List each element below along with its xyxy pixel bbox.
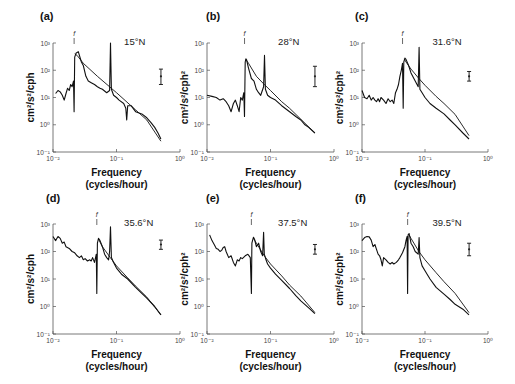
model-spectrum-line bbox=[75, 54, 161, 141]
y-tick-label: 10¹ bbox=[195, 276, 205, 283]
observed-spectrum-line bbox=[210, 232, 315, 313]
y-tick-label: 10³ bbox=[41, 40, 51, 47]
x-tick-label: 10⁰ bbox=[329, 337, 339, 344]
y-tick-label: 10⁰ bbox=[194, 303, 204, 310]
error-bar bbox=[159, 240, 163, 249]
f-marker-label: f bbox=[402, 30, 405, 37]
figure: 10⁻¹10⁰10¹10²10³10⁻²10⁻¹10⁰(a)15°Nfcm²/s… bbox=[0, 0, 515, 384]
y-tick-label: 10¹ bbox=[41, 276, 51, 283]
y-tick-label: 10² bbox=[350, 248, 360, 255]
y-tick-label: 10³ bbox=[195, 221, 205, 228]
y-tick-label: 10² bbox=[350, 67, 360, 74]
observed-spectrum-line bbox=[207, 55, 315, 133]
panel-d: 10⁻¹10⁰10¹10²10³10⁻²10⁻¹10⁰(d)35.6°Nfcm²… bbox=[25, 192, 185, 372]
x-axis-sublabel: (cycles/hour) bbox=[239, 361, 301, 372]
x-axis-label: Frequency bbox=[245, 167, 296, 178]
y-tick-label: 10⁰ bbox=[40, 121, 50, 128]
y-tick-label: 10⁰ bbox=[194, 121, 204, 128]
error-bar bbox=[313, 244, 317, 254]
x-tick-label: 10⁻¹ bbox=[418, 155, 432, 162]
model-spectrum-line bbox=[404, 59, 469, 136]
latitude-annotation: 15°N bbox=[124, 36, 145, 47]
y-tick-label: 10³ bbox=[350, 40, 360, 47]
y-tick-label: 10² bbox=[41, 67, 51, 74]
x-tick-label: 10⁻¹ bbox=[264, 155, 278, 162]
panel-label: (e) bbox=[206, 192, 220, 204]
panel-f: 10⁻¹10⁰10¹10²10³10⁻²10⁻¹10⁰(f)39.5°Nfcm²… bbox=[334, 192, 493, 372]
x-tick-label: 10⁰ bbox=[483, 155, 493, 162]
y-tick-label: 10⁰ bbox=[349, 121, 359, 128]
x-tick-label: 10⁰ bbox=[175, 337, 185, 344]
y-tick-label: 10³ bbox=[41, 221, 51, 228]
panel-label: (b) bbox=[206, 10, 220, 22]
panel-label: (c) bbox=[355, 10, 369, 22]
x-tick-label: 10⁰ bbox=[483, 337, 493, 344]
x-axis-label: Frequency bbox=[400, 349, 451, 360]
y-tick-label: 10¹ bbox=[350, 94, 360, 101]
y-tick-label: 10⁰ bbox=[349, 303, 359, 310]
x-tick-label: 10⁻² bbox=[46, 337, 60, 344]
x-axis-label: Frequency bbox=[91, 167, 142, 178]
y-tick-label: 10⁰ bbox=[40, 303, 50, 310]
panel-label: (d) bbox=[46, 192, 60, 204]
panel-e: 10⁻¹10⁰10¹10²10³10⁻²10⁻¹10⁰(e)37.5°Nfcm²… bbox=[179, 192, 339, 372]
latitude-annotation: 31.6°N bbox=[433, 36, 462, 47]
y-tick-label: 10² bbox=[41, 248, 51, 255]
x-axis-sublabel: (cycles/hour) bbox=[85, 361, 147, 372]
y-tick-label: 10³ bbox=[195, 40, 205, 47]
x-tick-label: 10⁻² bbox=[200, 337, 214, 344]
model-spectrum-line bbox=[99, 239, 161, 315]
x-tick-label: 10⁻¹ bbox=[110, 337, 124, 344]
y-tick-label: 10¹ bbox=[195, 94, 205, 101]
panel-a: 10⁻¹10⁰10¹10²10³10⁻²10⁻¹10⁰(a)15°Nfcm²/s… bbox=[25, 10, 185, 190]
y-axis-label: cm²/s²/cph² bbox=[334, 70, 345, 124]
observed-spectrum-line bbox=[362, 47, 469, 139]
x-axis-sublabel: (cycles/hour) bbox=[394, 179, 456, 190]
x-axis-sublabel: (cycles/hour) bbox=[239, 179, 301, 190]
error-bar bbox=[467, 71, 471, 81]
y-tick-label: 10² bbox=[195, 248, 205, 255]
x-tick-label: 10⁻² bbox=[200, 155, 214, 162]
x-tick-label: 10⁻¹ bbox=[418, 337, 432, 344]
panel-label: (a) bbox=[40, 10, 54, 22]
f-marker-label: f bbox=[244, 30, 247, 37]
error-bar bbox=[313, 66, 317, 86]
x-tick-label: 10⁰ bbox=[175, 155, 185, 162]
observed-spectrum-line bbox=[56, 43, 161, 139]
y-axis-label: cm²/s²/cph² bbox=[179, 70, 190, 124]
latitude-annotation: 37.5°N bbox=[278, 217, 307, 228]
y-tick-label: 10¹ bbox=[350, 276, 360, 283]
f-marker-label: f bbox=[407, 211, 410, 218]
model-spectrum-line bbox=[246, 59, 315, 133]
panel-b: 10⁻¹10⁰10¹10²10³10⁻²10⁻¹10⁰(b)28°Nfcm²/s… bbox=[179, 10, 339, 190]
x-axis-label: Frequency bbox=[91, 349, 142, 360]
x-tick-label: 10⁻¹ bbox=[110, 155, 124, 162]
x-axis-label: Frequency bbox=[400, 167, 451, 178]
f-marker-label: f bbox=[250, 211, 253, 218]
y-axis-label: cm²/s²/cph bbox=[25, 72, 36, 122]
y-axis-label: cm²/s²/cph² bbox=[179, 252, 190, 306]
x-tick-label: 10⁻² bbox=[46, 155, 60, 162]
x-axis-label: Frequency bbox=[245, 349, 296, 360]
latitude-annotation: 28°N bbox=[278, 36, 299, 47]
f-marker-label: f bbox=[73, 30, 76, 37]
x-tick-label: 10⁻² bbox=[355, 337, 369, 344]
error-bar bbox=[467, 243, 471, 256]
y-axis-label: cm²/s²/cph bbox=[25, 254, 36, 304]
x-tick-label: 10⁻² bbox=[355, 155, 369, 162]
latitude-annotation: 35.6°N bbox=[124, 217, 153, 228]
x-tick-label: 10⁻¹ bbox=[264, 337, 278, 344]
panel-label: (f) bbox=[355, 192, 366, 204]
x-tick-label: 10⁰ bbox=[329, 155, 339, 162]
error-bar bbox=[159, 69, 163, 84]
panel-c: 10⁻¹10⁰10¹10²10³10⁻²10⁻¹10⁰(c)31.6°Nfcm²… bbox=[334, 10, 493, 190]
x-axis-sublabel: (cycles/hour) bbox=[394, 361, 456, 372]
x-axis-sublabel: (cycles/hour) bbox=[85, 179, 147, 190]
y-tick-label: 10³ bbox=[350, 221, 360, 228]
latitude-annotation: 39.5°N bbox=[433, 217, 462, 228]
f-marker-label: f bbox=[96, 211, 99, 218]
y-tick-label: 10² bbox=[195, 67, 205, 74]
observed-spectrum-line bbox=[53, 227, 161, 315]
y-tick-label: 10¹ bbox=[41, 94, 51, 101]
y-axis-label: cm²/s²/cph² bbox=[334, 252, 345, 306]
